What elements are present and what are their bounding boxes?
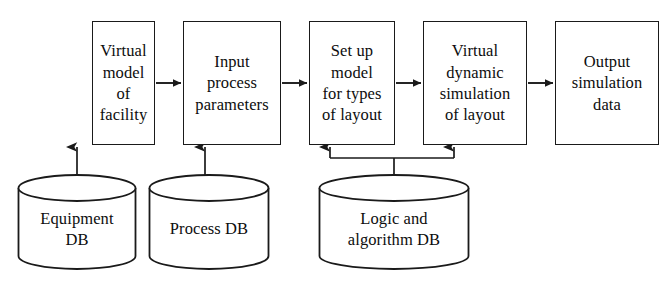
database-logic-and-algorithm-db[interactable]: Logic and algorithm DB <box>318 174 470 270</box>
database-label: Logic and algorithm DB <box>318 208 470 250</box>
process-flow-diagram: Virtual model of facility Input process … <box>0 0 662 290</box>
database-label: Process DB <box>148 218 270 239</box>
process-box-label: Virtual dynamic simulation of layout <box>438 40 513 126</box>
process-box-set-up-model-for-types-of-layout[interactable]: Set up model for types of layout <box>309 21 395 145</box>
process-box-label: Output simulation data <box>570 51 645 115</box>
process-box-virtual-dynamic-simulation-of-layout[interactable]: Virtual dynamic simulation of layout <box>423 21 527 145</box>
process-box-output-simulation-data[interactable]: Output simulation data <box>555 21 659 145</box>
database-equipment-db[interactable]: Equipment DB <box>17 174 137 270</box>
process-box-label: Virtual model of facility <box>98 40 150 126</box>
database-process-db[interactable]: Process DB <box>148 174 270 270</box>
process-box-label: Set up model for types of layout <box>320 40 384 126</box>
process-box-virtual-model-of-facility[interactable]: Virtual model of facility <box>92 21 155 145</box>
process-box-label: Input process parameters <box>193 51 270 115</box>
process-box-input-process-parameters[interactable]: Input process parameters <box>183 21 281 145</box>
database-label: Equipment DB <box>17 208 137 250</box>
